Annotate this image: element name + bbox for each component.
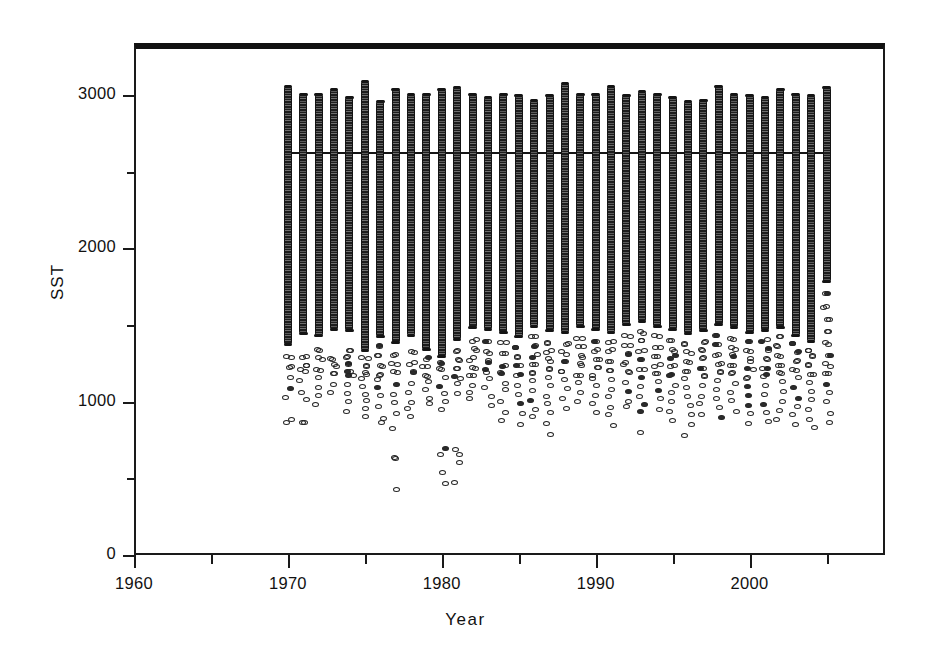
data-point-marker — [363, 363, 370, 368]
data-point-marker — [745, 393, 752, 398]
x-axis-minor-tick — [673, 555, 675, 564]
year-dense-cluster — [422, 94, 430, 350]
data-point-marker — [411, 350, 418, 355]
data-point-marker — [498, 371, 505, 376]
year-dense-cluster — [284, 86, 292, 345]
data-point-marker — [625, 389, 632, 394]
data-point-marker — [377, 393, 384, 398]
year-dense-cluster — [746, 95, 754, 333]
data-point-marker — [374, 377, 381, 382]
data-point-marker — [547, 359, 554, 364]
year-dense-cluster — [361, 81, 369, 351]
data-point-marker — [362, 414, 369, 419]
data-point-marker — [502, 381, 509, 386]
year-dense-cluster — [607, 86, 615, 333]
data-point-marker — [733, 409, 740, 414]
year-dense-cluster — [622, 95, 630, 325]
cluster-bottom-cap — [714, 323, 723, 326]
data-point-marker — [456, 460, 463, 465]
cluster-bottom-cap — [561, 331, 570, 334]
data-point-marker — [513, 373, 520, 378]
data-point-marker — [488, 394, 495, 399]
data-point-marker — [764, 366, 771, 371]
data-point-marker — [437, 452, 444, 457]
data-point-marker — [302, 369, 309, 374]
data-point-marker — [529, 378, 536, 383]
cluster-bottom-cap — [761, 329, 770, 332]
data-point-marker — [410, 370, 417, 375]
cluster-bottom-cap — [345, 329, 354, 332]
data-point-marker — [811, 425, 818, 430]
data-point-marker — [655, 379, 662, 384]
data-point-marker — [656, 407, 663, 412]
data-point-marker — [333, 364, 340, 369]
data-point-marker — [777, 354, 784, 359]
cluster-top-cap — [807, 94, 816, 97]
cluster-top-cap — [299, 93, 308, 96]
data-point-marker — [747, 411, 754, 416]
data-point-marker — [408, 381, 415, 386]
data-point-marker — [314, 347, 321, 352]
data-point-marker — [350, 373, 357, 378]
data-point-marker — [485, 358, 492, 363]
data-point-marker — [682, 369, 689, 374]
data-point-marker — [626, 370, 633, 375]
x-axis-tick-label: 1990 — [551, 574, 641, 593]
data-point-marker — [545, 375, 552, 380]
data-point-marker — [466, 390, 473, 395]
data-point-marker — [792, 422, 799, 427]
cluster-bottom-cap — [807, 340, 816, 343]
data-point-marker — [466, 396, 473, 401]
data-point-marker — [519, 411, 526, 416]
cluster-top-cap — [330, 88, 339, 91]
data-point-marker — [625, 399, 632, 404]
data-point-marker — [451, 480, 458, 485]
data-point-marker — [773, 417, 780, 422]
data-point-marker — [287, 375, 294, 380]
data-point-marker — [548, 348, 555, 353]
data-point-marker — [715, 362, 722, 367]
data-point-marker — [482, 339, 489, 344]
data-point-marker — [546, 367, 553, 372]
year-dense-cluster — [561, 83, 569, 333]
cluster-top-cap — [391, 88, 400, 91]
data-point-marker — [514, 383, 521, 388]
data-point-marker — [826, 317, 833, 322]
cluster-top-cap — [607, 85, 616, 88]
year-dense-cluster — [484, 97, 492, 330]
data-point-marker — [331, 371, 338, 376]
data-point-marker — [488, 403, 495, 408]
cluster-bottom-cap — [822, 280, 831, 283]
data-point-marker — [764, 357, 771, 362]
data-point-marker — [713, 396, 720, 401]
data-point-marker — [358, 376, 365, 381]
data-point-marker — [730, 337, 737, 342]
data-point-marker — [826, 420, 833, 425]
cluster-top-cap — [376, 100, 385, 103]
data-point-marker — [362, 406, 369, 411]
data-point-marker — [795, 375, 802, 380]
data-point-marker — [654, 354, 661, 359]
data-point-marker — [716, 405, 723, 410]
data-point-marker — [776, 408, 783, 413]
data-point-marker — [622, 360, 629, 365]
x-axis-minor-tick — [827, 555, 829, 564]
data-point-marker — [655, 388, 662, 393]
cluster-top-cap — [591, 93, 600, 96]
data-point-marker — [608, 387, 615, 392]
data-point-marker — [636, 394, 643, 399]
data-point-marker — [701, 340, 708, 345]
data-point-marker — [315, 385, 322, 390]
data-point-marker — [688, 351, 695, 356]
cluster-bottom-cap — [407, 334, 416, 337]
data-point-marker — [672, 353, 679, 358]
data-point-marker — [527, 398, 534, 403]
cluster-top-cap — [484, 96, 493, 99]
data-point-marker — [317, 368, 324, 373]
data-point-marker — [393, 487, 400, 492]
cluster-top-cap — [514, 94, 523, 97]
data-point-marker — [426, 401, 433, 406]
data-point-marker — [441, 391, 448, 396]
data-point-marker — [681, 376, 688, 381]
data-point-marker — [532, 362, 539, 367]
